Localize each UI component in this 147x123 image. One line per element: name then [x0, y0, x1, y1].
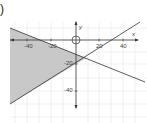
x-tick-label: 20	[96, 43, 103, 49]
x-tick-label: -20	[48, 43, 57, 49]
inequality-graph	[0, 0, 147, 123]
y-axis-label: y	[79, 24, 82, 30]
problem-label: )	[0, 2, 4, 16]
y-tick-label: -40	[64, 87, 73, 93]
x-axis-arrow-right	[135, 39, 139, 42]
x-axis-label: x	[132, 31, 135, 37]
y-axis-arrow-up	[75, 21, 78, 25]
x-tick-label: 40	[120, 43, 127, 49]
x-tick-label: -40	[24, 43, 33, 49]
y-tick-label: -20	[64, 60, 73, 66]
y-axis-arrow-down	[75, 105, 78, 109]
shaded-region	[10, 28, 86, 104]
